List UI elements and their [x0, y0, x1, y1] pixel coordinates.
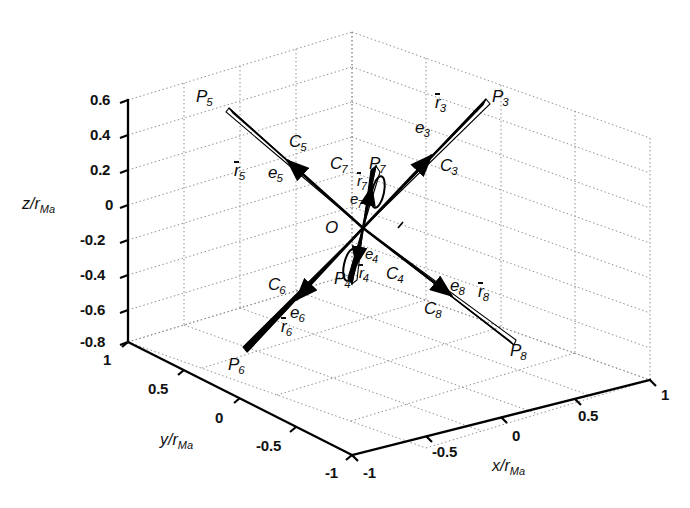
label-e7-sub: 7	[357, 198, 363, 210]
x-tick-4: 1	[661, 387, 669, 402]
x-tick-2: 0	[512, 428, 520, 443]
overbar-r6	[281, 317, 286, 319]
label-p5: P5	[196, 88, 213, 109]
label-r8-main: r	[478, 282, 484, 301]
z-tick-3: 0	[105, 197, 113, 212]
label-r4: r4	[359, 265, 369, 284]
y-tick-4: -1	[325, 465, 338, 480]
y-tick-3: -0.5	[256, 438, 281, 453]
label-r6: r6	[281, 318, 292, 339]
y-tick-1: 0.5	[148, 381, 168, 396]
plot-canvas	[0, 0, 690, 508]
label-r5: r5	[234, 162, 245, 183]
label-p8-sub: 8	[520, 350, 526, 362]
label-p6: P6	[228, 356, 245, 377]
label-r4-main: r	[359, 264, 364, 281]
label-e5-sub: 5	[276, 172, 282, 184]
x-axis-title: x/rMa	[492, 458, 525, 477]
label-c8-sub: 8	[435, 308, 441, 320]
overbar-r7	[357, 172, 361, 174]
label-c3: C3	[440, 157, 458, 178]
label-c7-sub: 7	[341, 163, 347, 175]
label-r8: r8	[478, 283, 489, 304]
label-e6-sub: 6	[298, 312, 304, 324]
y-tick-2: 0	[215, 410, 223, 425]
label-e3-sub: 3	[423, 127, 429, 139]
label-r6-main: r	[281, 317, 287, 336]
y-axis-title-main: y/r	[160, 431, 178, 448]
label-r7: r7	[357, 173, 367, 192]
z-axis-title-main: z/r	[22, 195, 40, 212]
label-c7: C7	[330, 155, 348, 176]
z-tick-4: -0.2	[80, 232, 105, 247]
origin-label: O	[325, 219, 338, 236]
label-c8: C8	[424, 300, 442, 321]
label-c4-sub: 4	[397, 273, 403, 285]
label-c3-sub: 3	[451, 165, 457, 177]
z-tick-5: -0.4	[80, 267, 105, 282]
vector-bodies	[226, 99, 516, 352]
label-e5: e5	[268, 164, 283, 185]
label-e4-sub: 4	[372, 253, 378, 265]
label-p3-sub: 3	[502, 96, 508, 108]
y-axis-title-sub: Ma	[178, 439, 193, 451]
label-e3: e3	[415, 119, 430, 140]
label-p7: P7	[369, 155, 386, 176]
z-axis-title: z/rMa	[22, 196, 55, 215]
x-tick-1: -0.5	[432, 444, 457, 459]
overbar-r4	[359, 264, 363, 266]
z-tick-6: -0.6	[80, 302, 105, 317]
label-c5-sub: 5	[300, 141, 306, 153]
z-tick-1: 0.4	[90, 127, 110, 142]
grid-floor	[128, 274, 650, 448]
label-c6: C6	[268, 276, 286, 297]
x-tick-3: 0.5	[578, 408, 598, 423]
z-axis-title-sub: Ma	[40, 203, 55, 215]
label-p7-sub: 7	[379, 163, 385, 175]
x-axis-title-main: x/r	[492, 457, 510, 474]
x-tick-0: -1	[363, 465, 376, 480]
y-tick-0: 1	[103, 352, 111, 367]
z-tick-2: 0.2	[90, 162, 110, 177]
label-p8: P8	[510, 342, 527, 363]
label-p4: P4	[334, 270, 351, 291]
label-c6-sub: 6	[279, 284, 285, 296]
label-p5-sub: 5	[206, 96, 212, 108]
label-c4: C4	[386, 265, 404, 286]
y-axis-title: y/rMa	[160, 432, 193, 451]
overbar-r5	[234, 161, 239, 163]
label-p4-sub: 4	[344, 278, 350, 290]
label-r3-main: r	[435, 93, 441, 112]
x-axis-title-sub: Ma	[510, 465, 525, 477]
label-e6: e6	[290, 304, 305, 325]
figure-3d-vector-plot: 0.6 0.4 0.2 0 -0.2 -0.4 -0.6 -0.8 z/rMa …	[0, 0, 690, 508]
label-r5-main: r	[234, 161, 240, 180]
label-r7-main: r	[357, 172, 362, 189]
label-e4: e4	[365, 246, 378, 265]
overbar-r3	[435, 93, 440, 95]
z-tick-7: -0.8	[80, 334, 105, 349]
overbar-r8	[478, 282, 483, 284]
z-axis-ticks	[120, 100, 128, 345]
z-tick-0: 0.6	[90, 92, 110, 107]
label-e8: e8	[450, 277, 465, 298]
label-r3: r3	[435, 94, 446, 115]
label-c5: C5	[289, 133, 307, 154]
label-e7: e7	[350, 191, 363, 210]
label-p6-sub: 6	[238, 364, 244, 376]
label-e8-sub: 8	[458, 285, 464, 297]
grid-back-right-wall	[352, 32, 650, 380]
label-p3: P3	[492, 88, 509, 109]
